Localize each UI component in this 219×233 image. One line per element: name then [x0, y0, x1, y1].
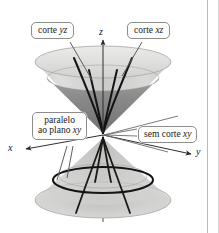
callout-sem-corte-xy-text: sem corte xy	[144, 129, 191, 139]
axis-label-y: y	[196, 146, 200, 157]
callout-corte-xz-text: corte xz	[134, 25, 163, 35]
cone-diagram-figure: corte yz corte xz paralelo ao plano xy s…	[0, 0, 219, 233]
callout-corte-yz-text: corte yz	[38, 25, 67, 35]
callout-sem-corte-xy[interactable]: sem corte xy	[138, 126, 197, 143]
callout-corte-yz[interactable]: corte yz	[31, 22, 74, 39]
axis-label-z: z	[99, 26, 103, 37]
figure-border	[208, 0, 219, 233]
lower-cone-surface	[35, 138, 171, 218]
callout-paralelo-line1: paralelo	[38, 115, 81, 125]
axis-label-x: x	[8, 142, 12, 153]
callout-paralelo-line2: ao plano xy	[38, 125, 81, 135]
callout-corte-xz[interactable]: corte xz	[127, 22, 170, 39]
callout-paralelo-ao-plano-xy[interactable]: paralelo ao plano xy	[32, 112, 87, 140]
